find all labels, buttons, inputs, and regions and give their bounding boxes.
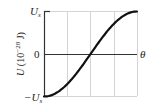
y-tick-us: Us <box>30 6 41 21</box>
y-tick-zero: 0 <box>34 49 40 60</box>
y-axis-label: U (10−28 J) <box>14 32 26 76</box>
x-axis-label: θ <box>140 49 145 60</box>
y-tick-neg-us: −Us <box>24 92 42 107</box>
